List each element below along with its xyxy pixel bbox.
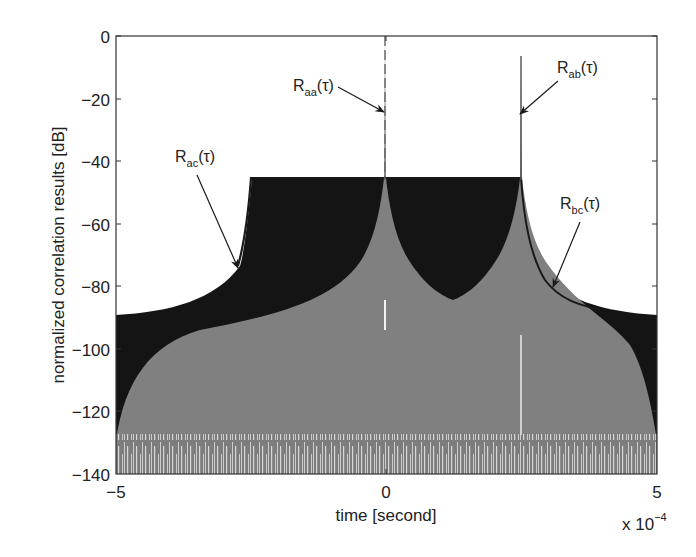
x-tick-labels: −5 0 5	[106, 483, 661, 502]
artifact-right	[520, 335, 522, 435]
y-tick-m80: −80	[81, 278, 110, 297]
x-tick-5: 5	[652, 483, 661, 502]
y-tick-m60: −60	[81, 216, 110, 235]
y-tick-0: 0	[101, 28, 110, 47]
y-tick-m100: −100	[72, 341, 110, 360]
annot-rac-label: Rac(τ)	[175, 148, 215, 169]
y-tick-labels: 0 −20 −40 −60 −80 −100 −120 −140	[72, 28, 110, 485]
plot-area	[116, 36, 657, 474]
x-multiplier: x 10−4	[622, 511, 667, 534]
annot-rab-label: Rab(τ)	[557, 59, 598, 80]
annotation-rac: Rac(τ)	[175, 148, 238, 268]
annotation-rbc: Rbc(τ)	[553, 195, 600, 287]
correlation-chart: 0 −20 −40 −60 −80 −100 −120 −140 −5 0 5 …	[0, 0, 696, 557]
y-tick-m140: −140	[72, 466, 110, 485]
arrow-raa-icon	[338, 87, 384, 112]
y-axis-label: normalized correlation results [dB]	[49, 126, 68, 383]
arrow-rab-icon	[520, 81, 558, 114]
annot-raa-label: Raa(τ)	[293, 77, 334, 98]
noise-floor	[116, 434, 657, 474]
arrow-rac-icon	[197, 175, 238, 268]
y-tick-m20: −20	[81, 91, 110, 110]
x-tick-0: 0	[381, 483, 390, 502]
y-tick-m120: −120	[72, 403, 110, 422]
annotation-raa: Raa(τ)	[293, 77, 384, 112]
x-axis-label: time [second]	[335, 506, 436, 525]
y-tick-m40: −40	[81, 153, 110, 172]
artifact-center	[384, 300, 386, 330]
x-tick-m5: −5	[106, 483, 125, 502]
arrow-rbc-icon	[553, 222, 580, 287]
annotation-rab: Rab(τ)	[520, 59, 598, 114]
raa-rab-gray-fill	[116, 36, 657, 474]
annot-rbc-label: Rbc(τ)	[560, 195, 600, 216]
